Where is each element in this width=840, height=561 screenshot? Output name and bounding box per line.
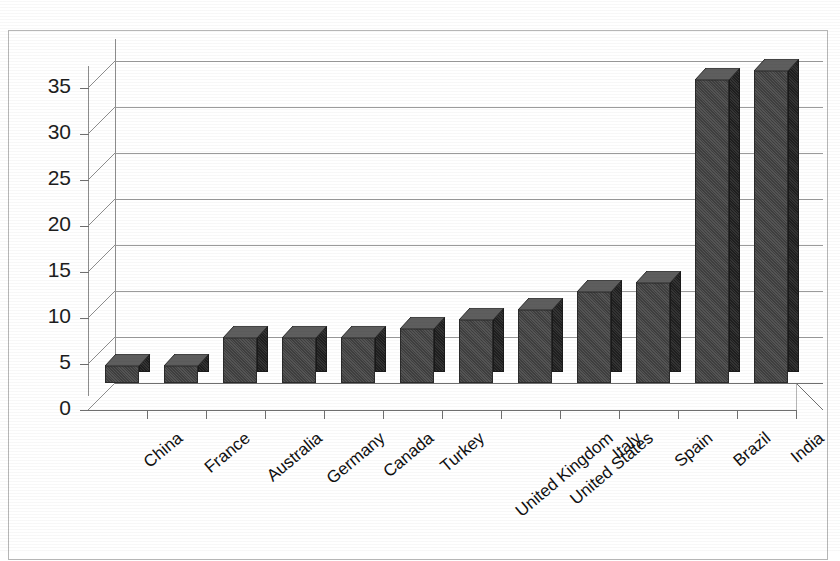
x-tick-5: [442, 410, 443, 419]
chart-title: [0, 0, 840, 5]
y-axis-label: 20: [23, 212, 71, 236]
bar-united-kingdom[interactable]: [459, 308, 504, 383]
chart-frame: 35302520151050 ChinaFranceAustraliaGerma…: [8, 30, 828, 560]
bar-front-face: [223, 337, 257, 383]
y-axis-label: 0: [23, 396, 71, 420]
bar-top-face: [695, 67, 741, 85]
bar-front-face: [695, 79, 729, 383]
bar-top-face: [400, 316, 446, 334]
y-tick-35: [80, 88, 89, 89]
bar-top-face: [636, 270, 682, 288]
bar-front-face: [636, 282, 670, 383]
depth-connector-25: [88, 153, 115, 180]
depth-connector-20: [88, 199, 115, 226]
y-axis-label: 25: [23, 166, 71, 190]
bar-top-face: [577, 279, 623, 297]
y-tick-5: [80, 364, 89, 365]
x-tick-2: [265, 410, 266, 419]
bar-top-face: [518, 297, 564, 315]
depth-connector-0: [88, 383, 115, 410]
gridline-0: [115, 383, 823, 384]
bar-germany[interactable]: [282, 326, 327, 383]
gridline-35: [115, 61, 823, 62]
depth-connector-15: [88, 245, 115, 272]
bar-australia[interactable]: [223, 326, 268, 383]
y-tick-20: [80, 226, 89, 227]
y-axis-label: 5: [23, 350, 71, 374]
y-axis-label: 10: [23, 304, 71, 328]
x-tick-1: [206, 410, 207, 419]
plot-area: 35302520151050 ChinaFranceAustraliaGerma…: [9, 31, 829, 561]
x-tick-7: [560, 410, 561, 419]
y-axis-label: 35: [23, 74, 71, 98]
category-label-canada: Canada: [379, 428, 437, 482]
y-axis-label: 30: [23, 120, 71, 144]
bar-front-face: [459, 319, 493, 383]
bar-side-face: [788, 59, 799, 372]
x-tick-11: [796, 410, 797, 419]
value-axis-line: [88, 66, 89, 396]
bar-front-face: [518, 309, 552, 383]
bar-front-face: [282, 337, 316, 383]
y-tick-25: [80, 180, 89, 181]
bar-france[interactable]: [164, 354, 209, 383]
x-tick-10: [737, 410, 738, 419]
y-tick-30: [80, 134, 89, 135]
x-tick-9: [678, 410, 679, 419]
category-label-china: China: [139, 428, 186, 472]
depth-connector-35: [88, 61, 115, 88]
x-tick-8: [619, 410, 620, 419]
y-tick-10: [80, 318, 89, 319]
x-tick-4: [383, 410, 384, 419]
bar-front-face: [754, 70, 788, 383]
bar-top-face: [164, 353, 210, 371]
category-label-spain: Spain: [670, 428, 716, 471]
bar-front-face: [400, 328, 434, 383]
bar-canada[interactable]: [341, 326, 386, 383]
bar-top-face: [754, 58, 800, 76]
depth-connector-30: [88, 107, 115, 134]
bar-india[interactable]: [754, 59, 799, 383]
depth-connector-10: [88, 291, 115, 318]
y-tick-15: [80, 272, 89, 273]
bar-top-face: [341, 325, 387, 343]
bar-side-face: [729, 68, 740, 372]
floor-right-edge: [796, 383, 826, 417]
bar-top-face: [459, 307, 505, 325]
y-axis-label: 15: [23, 258, 71, 282]
bar-spain[interactable]: [636, 271, 681, 383]
bar-china[interactable]: [105, 354, 150, 383]
bar-italy[interactable]: [577, 280, 622, 383]
bar-top-face: [282, 325, 328, 343]
x-tick-0: [147, 410, 148, 419]
category-label-france: France: [200, 428, 253, 477]
category-label-india: India: [787, 428, 828, 467]
category-label-australia: Australia: [263, 428, 327, 486]
category-label-germany: Germany: [322, 428, 388, 488]
x-tick-6: [501, 410, 502, 419]
bar-turkey[interactable]: [400, 317, 445, 383]
bar-united-states[interactable]: [518, 298, 563, 383]
x-tick-3: [324, 410, 325, 419]
bar-front-face: [341, 337, 375, 383]
bar-top-face: [105, 353, 151, 371]
bar-brazil[interactable]: [695, 68, 740, 383]
bar-front-face: [577, 291, 611, 383]
category-label-turkey: Turkey: [436, 428, 488, 476]
bar-top-face: [223, 325, 269, 343]
category-label-brazil: Brazil: [729, 428, 774, 471]
